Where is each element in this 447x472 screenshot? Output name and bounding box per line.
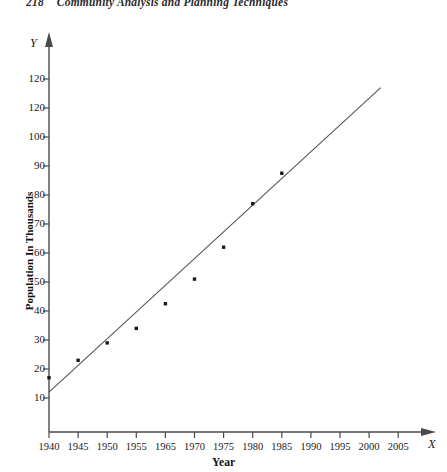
data-point-marker [164, 302, 167, 305]
y-tick-label: 120 [3, 102, 45, 113]
x-tick-marks [49, 432, 398, 438]
y-tick-label: 20 [3, 363, 45, 374]
y-tick-label: 10 [3, 392, 45, 403]
data-point-marker [280, 172, 283, 175]
x-tick-label: 2005 [378, 441, 418, 453]
plot-canvas [0, 0, 447, 472]
data-point-marker [47, 376, 50, 379]
fitted-trend-line [49, 88, 381, 393]
data-point-markers [47, 172, 283, 380]
data-point-marker [222, 246, 225, 249]
y-axis [45, 32, 53, 432]
x-axis-title: Year [0, 456, 447, 468]
y-tick-label: 100 [3, 131, 45, 142]
data-point-marker [251, 202, 254, 205]
y-axis-arrowhead [45, 32, 53, 47]
trend-line-segment [49, 88, 381, 393]
data-point-marker [193, 277, 196, 280]
y-axis-title: Population In Thousands [23, 166, 35, 336]
scatter-plot-figure: Y X 102030405060708090100120120 19401945… [0, 0, 447, 472]
data-point-marker [135, 327, 138, 330]
x-axis-arrowhead [421, 428, 436, 436]
data-point-marker [76, 359, 79, 362]
y-tick-label: 120 [3, 73, 45, 84]
data-point-marker [106, 341, 109, 344]
x-axis-tick-labels: 1940194519501955196519701975198019851990… [0, 441, 447, 457]
